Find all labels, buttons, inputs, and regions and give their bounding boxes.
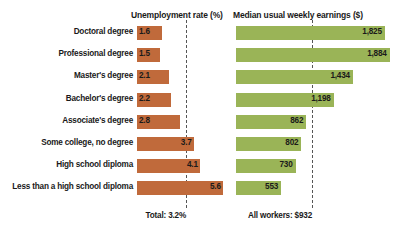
- earnings-value-6: 730: [264, 160, 293, 169]
- unemployment-value-2: 2.1: [139, 71, 150, 80]
- row-label-6: High school diploma: [0, 160, 133, 169]
- table-row: Doctoral degree1.61,825: [0, 26, 415, 42]
- table-row: Associate's degree2.8862: [0, 115, 415, 131]
- row-label-0: Doctoral degree: [0, 27, 133, 36]
- row-label-5: Some college, no degree: [0, 138, 133, 147]
- earnings-value-1: 1,884: [358, 49, 387, 58]
- earnings-value-4: 862: [274, 116, 303, 125]
- earnings-value-5: 802: [269, 138, 298, 147]
- earnings-value-7: 553: [249, 182, 278, 191]
- unemployment-value-1: 1.5: [139, 49, 150, 58]
- earnings-value-3: 1,198: [302, 94, 331, 103]
- earnings-all-workers-note: All workers: $932: [232, 211, 312, 220]
- table-row: High school diploma4.1730: [0, 159, 415, 175]
- table-row: Bachelor's degree2.21,198: [0, 93, 415, 109]
- table-row: Some college, no degree3.7802: [0, 137, 415, 153]
- unemployment-total-note: Total: 3.2%: [126, 211, 186, 220]
- unemployment-value-6: 4.1: [182, 160, 198, 169]
- unemployment-value-5: 3.7: [176, 138, 192, 147]
- unemployment-column-header: Unemployment rate (%): [131, 10, 223, 20]
- earnings-column-header: Median usual weekly earnings ($): [233, 10, 363, 20]
- table-row: Less than a high school diploma5.6553: [0, 181, 415, 197]
- earnings-value-0: 1,825: [353, 27, 382, 36]
- row-label-3: Bachelor's degree: [0, 94, 133, 103]
- earnings-value-2: 1,434: [321, 71, 350, 80]
- row-label-1: Professional degree: [0, 49, 133, 58]
- table-row: Master's degree2.11,434: [0, 70, 415, 86]
- unemployment-value-4: 2.8: [139, 116, 150, 125]
- row-label-7: Less than a high school diploma: [0, 182, 133, 191]
- unemployment-value-7: 5.6: [205, 182, 221, 191]
- unemployment-value-3: 2.2: [139, 94, 150, 103]
- education-pay-chart: Unemployment rate (%) Median usual weekl…: [0, 0, 415, 236]
- table-row: Professional degree1.51,884: [0, 48, 415, 64]
- row-label-4: Associate's degree: [0, 116, 133, 125]
- unemployment-value-0: 1.6: [139, 27, 150, 36]
- row-label-2: Master's degree: [0, 71, 133, 80]
